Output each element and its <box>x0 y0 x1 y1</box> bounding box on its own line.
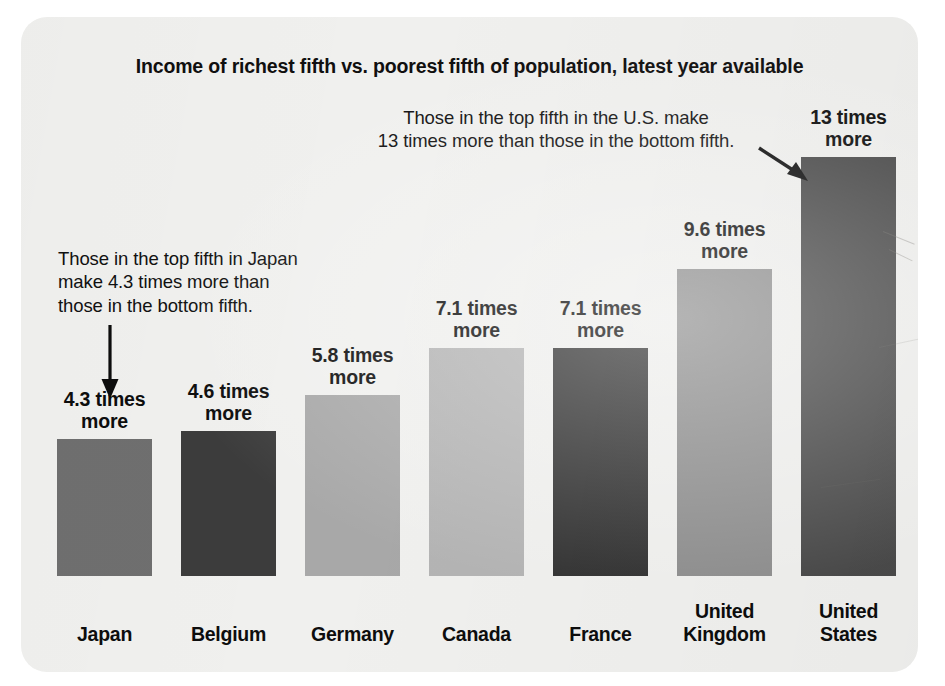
bar-category-canada: Canada <box>411 623 543 646</box>
bar-value-united-states-line2: more <box>825 128 872 150</box>
annotation-japan-line2: make 4.3 times more than <box>58 271 269 292</box>
bar-category-germany-line1: Germany <box>311 623 394 645</box>
bar-value-germany-line2: more <box>329 366 376 388</box>
bar-category-france-line1: France <box>569 623 631 645</box>
bar-value-japan-line2: more <box>81 410 128 432</box>
bar-category-united-kingdom-line1: United <box>695 600 754 622</box>
bar-value-canada-line2: more <box>453 319 500 341</box>
bar-value-united-kingdom: 9.6 times more <box>659 218 791 263</box>
bar-category-japan: Japan <box>39 623 171 646</box>
bar-canada[interactable] <box>429 348 524 576</box>
bar-value-united-states-line1: 13 times <box>810 106 886 128</box>
bar-value-united-kingdom-line1: 9.6 times <box>684 218 766 240</box>
bar-value-germany-line1: 5.8 times <box>312 344 394 366</box>
chart-card: Income of richest fifth vs. poorest fift… <box>21 17 918 672</box>
bar-value-united-kingdom-line2: more <box>701 240 748 262</box>
bar-germany[interactable] <box>305 395 400 576</box>
bar-value-germany: 5.8 times more <box>287 344 419 389</box>
bar-belgium[interactable] <box>181 431 276 576</box>
bar-value-canada: 7.1 times more <box>411 297 543 342</box>
bar-category-united-kingdom: United Kingdom <box>659 600 791 646</box>
annotation-arrow-united-states-icon <box>756 145 816 205</box>
bar-category-united-states: United States <box>783 600 915 646</box>
bar-category-united-kingdom-line2: Kingdom <box>683 623 766 645</box>
bar-value-france: 7.1 times more <box>535 297 667 342</box>
bar-united-kingdom[interactable] <box>677 269 772 576</box>
bar-category-belgium: Belgium <box>163 623 295 646</box>
bar-category-germany: Germany <box>287 623 419 646</box>
bar-category-france: France <box>535 623 667 646</box>
annotation-united-states-line1: Those in the top fifth in the U.S. make <box>403 107 709 128</box>
bar-france[interactable] <box>553 348 648 576</box>
annotation-japan-line3: those in the bottom fifth. <box>58 295 253 316</box>
bar-value-canada-line1: 7.1 times <box>436 297 518 319</box>
bar-value-belgium-line2: more <box>205 402 252 424</box>
bar-category-canada-line1: Canada <box>442 623 511 645</box>
bar-category-united-states-line2: States <box>820 623 877 645</box>
bar-united-states[interactable] <box>801 157 896 576</box>
annotation-united-states: Those in the top fifth in the U.S. make … <box>321 106 791 153</box>
bar-japan[interactable] <box>57 439 152 576</box>
bar-value-france-line1: 7.1 times <box>560 297 642 319</box>
bar-chart-plot-area: 4.3 times more Japan 4.6 times more Belg… <box>21 17 918 672</box>
annotation-united-states-line2: 13 times more than those in the bottom f… <box>378 130 734 151</box>
bar-category-belgium-line1: Belgium <box>191 623 266 645</box>
annotation-japan: Those in the top fifth in Japan make 4.3… <box>58 247 348 317</box>
bar-value-belgium: 4.6 times more <box>163 380 295 425</box>
annotation-japan-line1: Those in the top fifth in Japan <box>58 248 298 269</box>
bar-category-japan-line1: Japan <box>77 623 132 645</box>
bar-value-france-line2: more <box>577 319 624 341</box>
annotation-arrow-japan-icon <box>97 323 127 403</box>
bar-value-belgium-line1: 4.6 times <box>188 380 270 402</box>
bar-category-united-states-line1: United <box>819 600 878 622</box>
